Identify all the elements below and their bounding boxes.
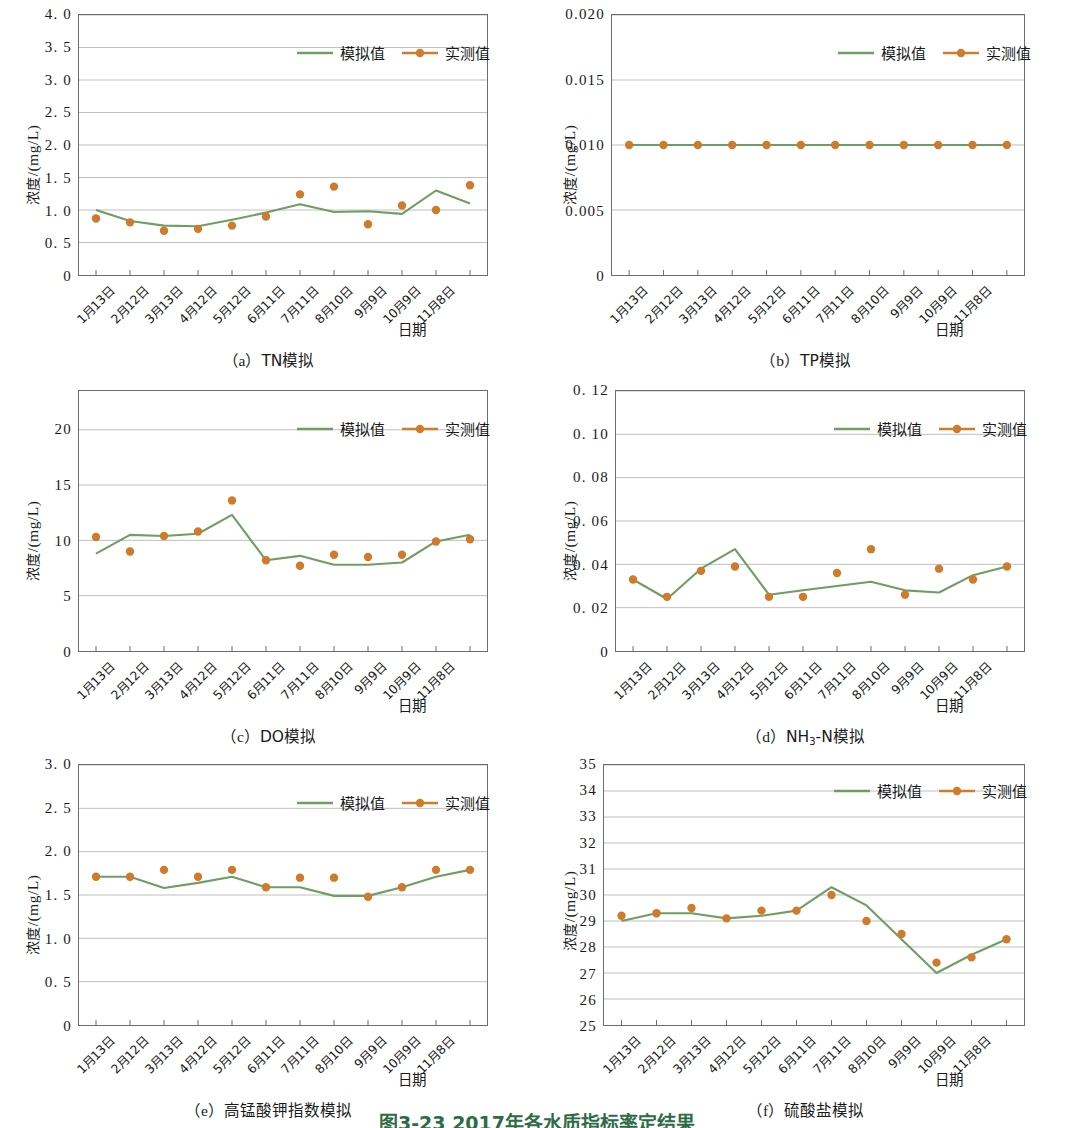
legend-swatch-simulated-line [296, 797, 334, 809]
data-point-measured [697, 567, 705, 575]
legend: 模拟值实测值 [837, 42, 1031, 63]
y-tick-label: 0.020 [565, 6, 605, 23]
legend-item-simulated: 模拟值 [837, 42, 926, 63]
data-point-measured [728, 141, 736, 149]
data-point-measured [827, 891, 835, 899]
series-line-simulated [96, 191, 470, 227]
y-tick-label: 30 [580, 887, 597, 904]
data-point-measured [867, 545, 875, 553]
panel-caption-text-pre: NH [786, 728, 809, 746]
data-point-measured [160, 866, 168, 874]
panel-caption-tp: （b）TP模拟 [537, 348, 1074, 370]
x-tick-marks [629, 270, 1007, 275]
x-tick-label: 4月12日 [174, 1032, 219, 1077]
data-point-measured [792, 906, 800, 914]
data-point-measured [126, 873, 134, 881]
x-tick-label: 4月12日 [174, 282, 219, 327]
legend-swatch-simulated-line [296, 423, 334, 435]
y-tick-label: 0. 5 [45, 974, 72, 991]
data-point-measured [762, 141, 770, 149]
data-point-measured [652, 909, 660, 917]
legend-label-measured: 实测值 [445, 42, 490, 63]
legend-swatch-simulated-line [837, 47, 875, 59]
data-point-measured [160, 227, 168, 235]
data-point-measured [160, 532, 168, 540]
x-tick-marks [96, 1020, 470, 1025]
x-tick-label: 3月13日 [140, 1032, 185, 1077]
data-point-measured [228, 866, 236, 874]
data-point-measured [765, 593, 773, 601]
x-tick-label: 8月10日 [310, 658, 355, 703]
x-tick-label: 6月11日 [242, 282, 287, 327]
y-tick-label: 31 [580, 860, 597, 877]
x-axis-title: 日期 [935, 694, 963, 715]
y-tick-label: 15 [55, 476, 72, 493]
data-point-measured [262, 556, 270, 564]
x-tick-label: 4月12日 [703, 1032, 748, 1077]
data-point-measured [694, 141, 702, 149]
data-point-measured [900, 141, 908, 149]
x-tick-label: 7月11日 [276, 658, 321, 703]
data-point-measured [862, 917, 870, 925]
legend: 模拟值实测值 [296, 792, 490, 813]
data-point-measured [629, 575, 637, 583]
y-tick-label: 34 [580, 782, 597, 799]
panel-caption-lead: （a） [223, 352, 262, 369]
x-tick-label: 5月12日 [743, 282, 788, 327]
x-tick-label: 5月12日 [208, 1032, 253, 1077]
y-tick-label: 29 [580, 913, 597, 930]
legend-swatch-simulated-line [833, 785, 871, 797]
legend-swatch-simulated-line [833, 423, 871, 435]
legend-item-measured: 实测值 [942, 42, 1031, 63]
y-tick-label: 0. 5 [45, 235, 72, 252]
data-point-measured [466, 866, 474, 874]
x-tick-label: 3月13日 [677, 658, 722, 703]
y-tick-label: 0.005 [565, 202, 605, 219]
data-point-measured [831, 141, 839, 149]
y-tick-label: 0.010 [565, 137, 605, 154]
data-point-measured [126, 218, 134, 226]
y-tick-labels: 00.0050.0100.0150.020 [553, 14, 605, 276]
series-line-simulated [96, 515, 470, 565]
y-tick-label: 35 [580, 756, 597, 773]
panel-caption-nh3n: （d）NH3-N模拟 [537, 724, 1074, 746]
x-tick-label: 7月11日 [813, 658, 858, 703]
data-point-measured [797, 141, 805, 149]
x-tick-marks [622, 1020, 1007, 1025]
x-tick-label: 6月11日 [777, 282, 822, 327]
legend-item-measured: 实测值 [938, 418, 1027, 439]
legend-label-simulated: 模拟值 [877, 780, 922, 801]
y-tick-label: 1. 5 [45, 169, 72, 186]
x-axis-title: 日期 [398, 318, 426, 339]
data-point-measured [731, 562, 739, 570]
data-point-measured [398, 883, 406, 891]
x-axis-title: 日期 [935, 318, 963, 339]
data-point-measured [398, 551, 406, 559]
x-tick-marks [96, 646, 470, 651]
data-point-measured [92, 873, 100, 881]
y-tick-label: 0 [63, 268, 72, 285]
x-tick-label: 8月10日 [310, 1032, 355, 1077]
x-tick-label: 7月11日 [276, 1032, 321, 1077]
x-tick-label: 1月13日 [609, 658, 654, 703]
y-tick-label: 0 [63, 644, 72, 661]
x-tick-label: 6月11日 [242, 1032, 287, 1077]
legend-swatch-measured-marker [401, 47, 439, 59]
x-tick-label: 2月12日 [640, 282, 685, 327]
x-tick-label: 8月10日 [846, 282, 891, 327]
x-tick-label: 7月11日 [276, 282, 321, 327]
y-axis-title-label: 浓度 [25, 552, 41, 581]
chart-panel-codmn: 浓度/(mg/L)00. 51. 01. 52. 02. 53. 0模拟值实测值… [0, 750, 537, 1126]
data-point-measured [330, 873, 338, 881]
y-tick-labels: 2526272829303132333435 [567, 764, 597, 1026]
y-tick-label: 0. 08 [573, 469, 609, 486]
y-axis-title-unit: /(mg/L) [24, 501, 41, 553]
chart-panel-sulfate: 浓度/(mg/L)2526272829303132333435模拟值实测值1月1… [537, 750, 1074, 1126]
y-tick-label: 3. 0 [45, 71, 72, 88]
data-point-measured [934, 141, 942, 149]
x-tick-marks [96, 270, 470, 275]
y-tick-labels: 00. 51. 01. 52. 02. 53. 0 [30, 764, 72, 1026]
y-tick-label: 2. 5 [45, 799, 72, 816]
data-point-measured [833, 569, 841, 577]
data-point-measured [1002, 935, 1010, 943]
